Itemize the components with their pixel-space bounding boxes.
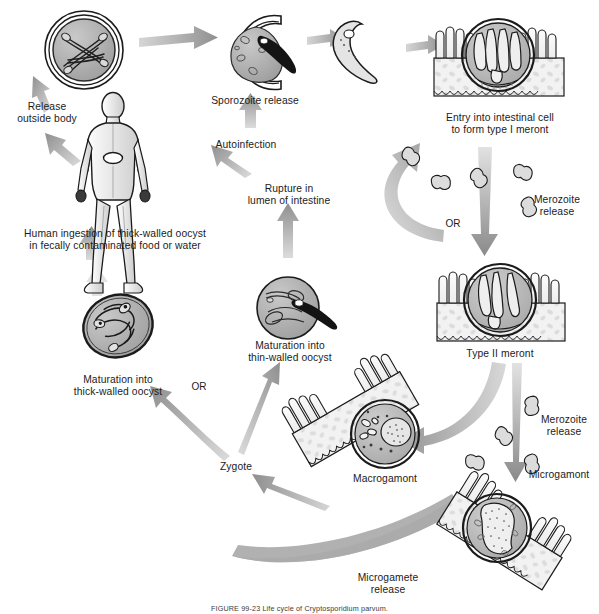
life-cycle-illustration [0,0,599,614]
stage-human-host [76,93,150,294]
figure-caption: FIGURE 99-23 Life cycle of Cryptosporidi… [0,604,599,613]
stage-type-ii-meront [437,264,565,341]
cryptosporidium-life-cycle-figure: Release outside body Human ingestion of … [0,0,599,614]
arrow-oocyst-to-excystation [139,26,218,49]
arrow-rupture-to-autoinfection [211,145,252,178]
arrow-zygote-to-thick-walled [150,386,230,461]
stage-thick-walled-oocyst [75,286,161,367]
merozoite-cluster-upper [400,146,542,220]
stage-released-thickwalled-oocyst [45,11,123,89]
stage-microgamont [437,466,579,590]
stage-thin-walled-oocyst [257,277,337,339]
arrow-type-ii-to-macrogamont [400,362,506,454]
stage-macrogamont [277,345,419,468]
stage-type-i-meront [434,19,564,96]
arrow-type-ii-to-microgamont [504,363,527,482]
arrow-release-outside-body [45,133,81,166]
arrow-to-thickwalled-oocyst-top [32,76,51,113]
arrow-to-type-ii-meront [471,147,498,256]
arrow-lumen-up [277,203,299,258]
arrow-microgamete-release-curve [232,494,462,562]
stage-excysting-oocyst [231,16,296,90]
arrow-zygote-to-thin-walled [238,362,280,455]
stage-free-sporozoite [333,21,377,83]
arrow-into-zygote [252,474,330,511]
arrow-autoinfection-up [239,93,262,128]
